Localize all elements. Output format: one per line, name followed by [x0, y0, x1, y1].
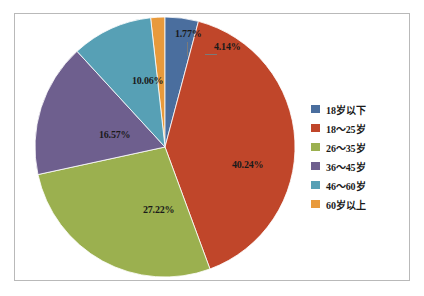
legend-item-under-18[interactable]: 18岁以下 [311, 100, 411, 118]
legend-swatch-icon [311, 162, 320, 170]
legend-swatch-icon [311, 105, 320, 113]
legend-label: 18～25岁 [326, 121, 365, 136]
legend-swatch-icon [311, 181, 320, 189]
legend-swatch-icon [311, 200, 320, 208]
legend-swatch-icon [311, 143, 320, 151]
legend-label: 36～45岁 [326, 159, 365, 174]
slice-label-18-to-25: 40.24% [232, 159, 263, 170]
pie-chart-plot-area: 1.77% 4.14% 10.06% 16.57% 27.22% 40.24% [15, 14, 315, 280]
leader-line-under-18 [205, 54, 217, 55]
slice-label-46-to-60: 10.06% [132, 75, 163, 86]
pie-slices-group [35, 17, 295, 277]
legend-label: 26～35岁 [326, 140, 365, 155]
legend-label: 46～60岁 [326, 178, 365, 193]
slice-label-60-and-above: 1.77% [175, 28, 202, 39]
pie-chart-svg [15, 14, 315, 280]
slice-label-36-to-45: 16.57% [99, 129, 130, 140]
slice-label-26-to-35: 27.22% [143, 204, 174, 215]
legend-item-46-to-60[interactable]: 46～60岁 [311, 176, 411, 194]
slice-label-under-18: 4.14% [214, 41, 241, 52]
legend-item-36-to-45[interactable]: 36～45岁 [311, 157, 411, 175]
chart-legend: 18岁以下 18～25岁 26～35岁 36～45岁 46～60岁 60岁以上 [311, 100, 411, 214]
legend-item-26-to-35[interactable]: 26～35岁 [311, 138, 411, 156]
chart-frame: 1.77% 4.14% 10.06% 16.57% 27.22% 40.24% … [14, 13, 410, 281]
legend-label: 18岁以下 [326, 102, 366, 117]
leader-line-60-and-above [187, 42, 188, 56]
legend-swatch-icon [311, 124, 320, 132]
legend-label: 60岁以上 [326, 197, 366, 212]
legend-item-18-to-25[interactable]: 18～25岁 [311, 119, 411, 137]
legend-item-60-and-above[interactable]: 60岁以上 [311, 195, 411, 213]
